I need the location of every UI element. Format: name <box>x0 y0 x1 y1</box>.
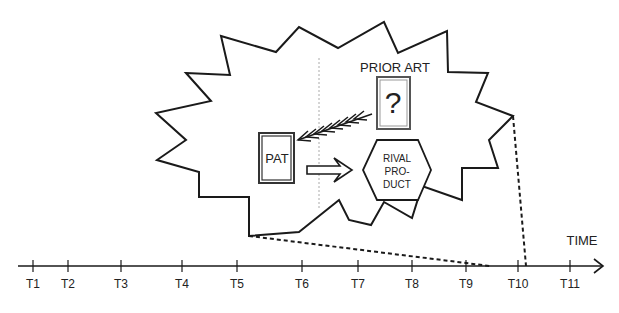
hollow-arrow-icon <box>307 158 352 182</box>
rival-label-line3: DUCT <box>383 179 411 190</box>
rival-label-line1: RIVAL <box>383 153 412 164</box>
pat-label: PAT <box>265 151 288 166</box>
timeline-ticks: T1T2T3T4T5T6T7T8T9T10T11 <box>26 260 580 291</box>
timeline-tick-label: T1 <box>26 277 40 291</box>
timeline-tick-label: T8 <box>405 277 419 291</box>
patent-document: PAT <box>259 133 294 183</box>
projection-line-right <box>513 116 526 266</box>
timeline-tick-label: T2 <box>61 277 75 291</box>
prior-art-document: ? <box>377 77 410 129</box>
timeline-tick-label: T5 <box>230 277 244 291</box>
rival-product-hexagon: RIVAL PRO- DUCT <box>363 140 431 200</box>
projection-line-left <box>249 236 490 266</box>
feathered-arrow-icon <box>298 111 372 141</box>
timeline-tick-label: T3 <box>114 277 128 291</box>
prior-art-label: PRIOR ART <box>360 60 430 75</box>
rival-label-line2: PRO- <box>385 166 410 177</box>
timeline-tick-label: T9 <box>459 277 473 291</box>
question-mark: ? <box>385 86 402 119</box>
timeline-tick-label: T11 <box>560 277 580 291</box>
timeline-tick-label: T10 <box>508 277 529 291</box>
time-axis-label: TIME <box>566 233 597 248</box>
timeline-tick-label: T6 <box>295 277 309 291</box>
patent-timeline-diagram: PRIOR ART ? PAT <box>0 0 619 313</box>
diagram-svg: PRIOR ART ? PAT <box>0 0 619 313</box>
timeline-tick-label: T4 <box>175 277 189 291</box>
timeline-tick-label: T7 <box>351 277 365 291</box>
